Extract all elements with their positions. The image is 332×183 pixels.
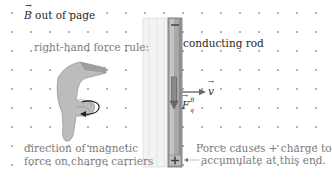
b-field-dot-icon bbox=[315, 69, 317, 71]
b-field-dot-icon bbox=[239, 107, 241, 109]
b-field-dot-icon bbox=[87, 31, 89, 33]
field-label: →B out of page bbox=[24, 10, 95, 22]
force-label: → FBq bbox=[182, 100, 189, 112]
b-field-dot-icon bbox=[220, 12, 222, 14]
b-field-dot-icon bbox=[201, 107, 203, 109]
b-field-dot-icon bbox=[277, 12, 279, 14]
b-field-dot-icon bbox=[315, 31, 317, 33]
b-field-dot-icon bbox=[11, 88, 13, 90]
b-field-dot-icon bbox=[296, 88, 298, 90]
b-field-dot-icon bbox=[125, 69, 127, 71]
b-field-dot-icon bbox=[277, 31, 279, 33]
b-field-dot-icon bbox=[220, 50, 222, 52]
b-field-dot-icon bbox=[239, 88, 241, 90]
b-field-dot-icon bbox=[258, 88, 260, 90]
rod-label: conducting rod bbox=[183, 38, 264, 50]
b-field-dot-icon bbox=[296, 50, 298, 52]
b-field-dot-icon bbox=[277, 88, 279, 90]
b-field-dot-icon bbox=[11, 126, 13, 128]
b-field-dot-icon bbox=[30, 31, 32, 33]
b-field-dot-icon bbox=[258, 69, 260, 71]
b-field-dot-icon bbox=[201, 31, 203, 33]
right-hand-icon bbox=[57, 62, 106, 141]
b-field-dot-icon bbox=[315, 88, 317, 90]
b-field-dot-icon bbox=[239, 50, 241, 52]
b-field-dot-icon bbox=[315, 126, 317, 128]
b-field-dot-icon bbox=[296, 126, 298, 128]
b-field-dot-icon bbox=[220, 69, 222, 71]
hand-caption-line-2: force on charge carriers bbox=[24, 156, 153, 168]
b-field-dot-icon bbox=[30, 88, 32, 90]
b-field-dot-icon bbox=[315, 107, 317, 109]
b-field-dot-icon bbox=[258, 50, 260, 52]
b-field-dot-icon bbox=[125, 107, 127, 109]
b-field-dot-icon bbox=[87, 88, 89, 90]
b-field-dot-icon bbox=[49, 126, 51, 128]
b-field-dot-icon bbox=[277, 126, 279, 128]
b-field-dot-icon bbox=[296, 31, 298, 33]
charge-caption-line-1: Force causes + charge to bbox=[196, 143, 332, 155]
b-field-dot-icon bbox=[220, 107, 222, 109]
b-field-dot-icon bbox=[201, 50, 203, 52]
b-field-dot-icon bbox=[201, 12, 203, 14]
b-field-dot-icon bbox=[11, 31, 13, 33]
pointer-arrow-icon bbox=[184, 158, 199, 162]
b-vector-symbol: →B bbox=[24, 9, 32, 21]
b-field-dot-icon bbox=[11, 145, 13, 147]
b-field-dot-icon bbox=[49, 88, 51, 90]
charge-caption-line-2: accumulate at this end. bbox=[201, 155, 326, 167]
b-field-dot-icon bbox=[49, 107, 51, 109]
b-field-dot-icon bbox=[296, 69, 298, 71]
b-field-dot-icon bbox=[125, 126, 127, 128]
b-field-dot-icon bbox=[277, 107, 279, 109]
b-field-dot-icon bbox=[106, 107, 108, 109]
b-field-dot-icon bbox=[182, 12, 184, 14]
b-field-dot-icon bbox=[220, 88, 222, 90]
b-field-dot-icon bbox=[106, 88, 108, 90]
b-field-dot-icon bbox=[201, 126, 203, 128]
b-field-dot-icon bbox=[315, 12, 317, 14]
b-field-dot-icon bbox=[258, 107, 260, 109]
b-field-dot-icon bbox=[239, 31, 241, 33]
b-field-dot-icon bbox=[49, 31, 51, 33]
rule-label: right-hand force rule: bbox=[34, 42, 149, 54]
b-field-dot-icon bbox=[315, 50, 317, 52]
b-field-dot-icon bbox=[277, 69, 279, 71]
b-field-dot-icon bbox=[258, 126, 260, 128]
b-field-dot-icon bbox=[239, 126, 241, 128]
b-field-dot-icon bbox=[106, 12, 108, 14]
b-field-dot-icon bbox=[220, 126, 222, 128]
b-field-dot-icon bbox=[30, 69, 32, 71]
b-field-dot-icon bbox=[87, 126, 89, 128]
b-field-dot-icon bbox=[106, 126, 108, 128]
b-field-dot-icon bbox=[201, 69, 203, 71]
b-field-dot-icon bbox=[125, 88, 127, 90]
b-field-dot-icon bbox=[277, 50, 279, 52]
b-field-dot-icon bbox=[239, 12, 241, 14]
b-field-dot-icon bbox=[49, 69, 51, 71]
b-field-dot-icon bbox=[11, 69, 13, 71]
b-field-dot-icon bbox=[163, 12, 165, 14]
b-field-dot-icon bbox=[296, 12, 298, 14]
b-field-dot-icon bbox=[125, 31, 127, 33]
b-field-dot-icon bbox=[258, 31, 260, 33]
b-field-dot-icon bbox=[30, 107, 32, 109]
b-field-dot-icon bbox=[258, 12, 260, 14]
b-field-dot-icon bbox=[144, 12, 146, 14]
b-field-dot-icon bbox=[11, 12, 13, 14]
b-field-dot-icon bbox=[296, 107, 298, 109]
b-field-dot-icon bbox=[201, 88, 203, 90]
hand-caption-line-1: direction of magnetic bbox=[24, 143, 138, 155]
b-field-dot-icon bbox=[125, 12, 127, 14]
b-field-dot-icon bbox=[30, 126, 32, 128]
b-field-dot-icon bbox=[106, 31, 108, 33]
b-field-dot-icon bbox=[30, 50, 32, 52]
velocity-label: →v bbox=[208, 86, 214, 98]
b-field-dot-icon bbox=[11, 164, 13, 166]
b-field-dot-icon bbox=[68, 31, 70, 33]
b-field-dot-icon bbox=[220, 31, 222, 33]
b-field-dot-icon bbox=[11, 107, 13, 109]
b-field-dot-icon bbox=[11, 50, 13, 52]
b-field-dot-icon bbox=[239, 69, 241, 71]
